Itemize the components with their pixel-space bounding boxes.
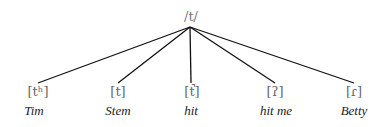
example-word-hit: hit — [184, 103, 198, 119]
branch-betty — [190, 27, 354, 83]
allophone-flap: [ɾ] — [346, 84, 362, 99]
branch-hit-me — [190, 27, 275, 83]
allophone-plain: [t] — [110, 84, 125, 99]
example-word-betty: Betty — [341, 103, 368, 119]
allophone-tree-diagram: /t/ [tʰ] [t] [t̚] [ʔ] [ɾ] Tim Stem hit h… — [0, 0, 386, 127]
example-word-hit-me: hit me — [260, 103, 292, 119]
allophone-unreleased: [t̚] — [184, 84, 199, 99]
branch-hit — [190, 27, 191, 83]
example-word-tim: Tim — [24, 103, 44, 119]
phoneme-root: /t/ — [184, 9, 198, 24]
branch-stem — [118, 27, 190, 83]
allophone-aspirated: [tʰ] — [28, 84, 49, 99]
allophone-glottal-stop: [ʔ] — [266, 84, 283, 99]
branch-tim — [38, 27, 190, 83]
example-word-stem: Stem — [105, 103, 130, 119]
